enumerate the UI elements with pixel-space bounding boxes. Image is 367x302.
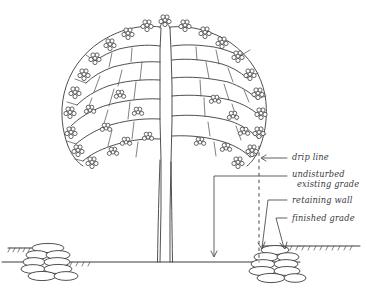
label-undisturbed-existing-grade-line2: existing grade (292, 179, 359, 189)
label-undisturbed-existing-grade-line1: undisturbed (292, 169, 345, 179)
label-drip-line: drip line (292, 152, 329, 162)
tree-retaining-wall-diagram: drip line undisturbedexisting grade reta… (0, 0, 367, 302)
label-undisturbed-existing-grade: undisturbedexisting grade (292, 169, 359, 189)
annotation-labels: drip line undisturbedexisting grade reta… (0, 0, 367, 302)
label-retaining-wall: retaining wall (292, 195, 353, 205)
label-finished-grade: finished grade (292, 213, 355, 223)
